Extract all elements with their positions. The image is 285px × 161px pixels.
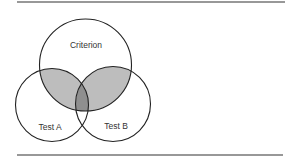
test-b-label: Test B bbox=[104, 121, 128, 131]
venn-diagram: Criterion Test A Test B bbox=[0, 0, 285, 161]
criterion-label: Criterion bbox=[70, 40, 102, 50]
test-a-label: Test A bbox=[38, 122, 61, 132]
